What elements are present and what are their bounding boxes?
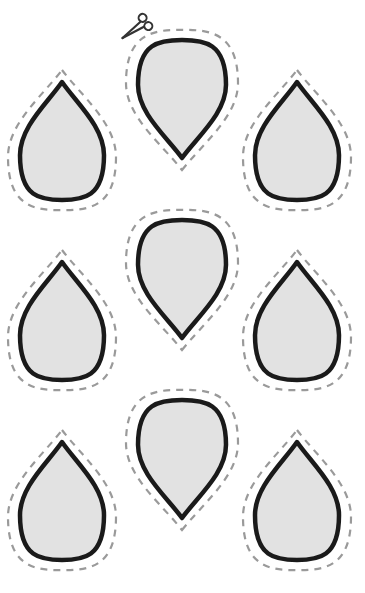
teardrop-shapes [8,30,351,570]
cutout-worksheet [0,0,365,593]
